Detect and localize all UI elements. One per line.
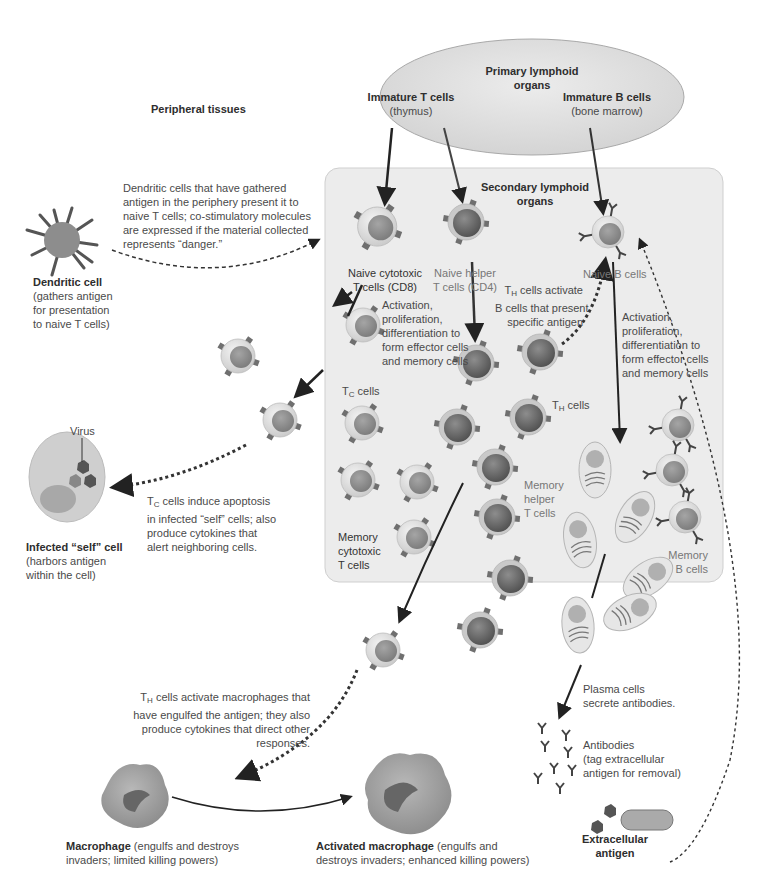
th-macrophage-label: TH cells activate macrophages that have … bbox=[110, 690, 310, 750]
dendritic-cell-image bbox=[27, 208, 97, 275]
immature-t-title: Immature T cells bbox=[366, 90, 456, 104]
tc-induce-line: in infected “self” cells; also bbox=[147, 512, 276, 526]
memory-b-line: Memory bbox=[660, 548, 708, 562]
memory-cyto-line: Memory bbox=[338, 530, 381, 544]
virus-label: Virus bbox=[70, 424, 95, 438]
antibodies-line: antigen for removal) bbox=[583, 766, 681, 780]
th-macro-line: responses. bbox=[110, 736, 310, 750]
activation-b-line: Activation, bbox=[622, 310, 709, 324]
tc-cells-label: TC cells bbox=[342, 384, 380, 402]
plasma-line: Plasma cells bbox=[583, 682, 675, 696]
naive-b-label: Naive B cells bbox=[583, 267, 647, 281]
dendritic-cell-label: Dendritic cell (gathers antigen for pres… bbox=[33, 275, 113, 331]
dendritic-sub-line: for presentation bbox=[33, 303, 113, 317]
antibodies-label: Antibodies (tag extracellular antigen fo… bbox=[583, 738, 681, 780]
act-macro-title: Activated macrophage bbox=[316, 840, 434, 852]
act-macro-line: destroys invaders; enhanced killing powe… bbox=[316, 853, 529, 867]
memory-cyto-line: T cells bbox=[338, 558, 381, 572]
activation-t-line: Activation, bbox=[382, 298, 469, 312]
memory-helper-line: T cells bbox=[524, 506, 564, 520]
plasma-line: secrete antibodies. bbox=[583, 696, 675, 710]
macrophage-line: Macrophage (engulfs and destroys bbox=[66, 839, 239, 853]
memory-cytotoxic-label: Memory cytotoxic T cells bbox=[338, 530, 381, 572]
activation-b-line: differentiation to bbox=[622, 338, 709, 352]
th-macro-text: cells activate macrophages that bbox=[156, 691, 310, 703]
t-symbol: T bbox=[552, 399, 559, 411]
c-subscript: C bbox=[154, 500, 160, 509]
infected-cell-label: Infected “self” cell (harbors antigen wi… bbox=[26, 540, 123, 582]
memory-helper-label: Memory helper T cells bbox=[524, 478, 564, 520]
immature-t-site: (thymus) bbox=[366, 104, 456, 118]
extracellular-line: antigen bbox=[570, 846, 660, 860]
antibodies-image bbox=[534, 723, 576, 794]
dendritic-sub-line: (gathers antigen bbox=[33, 289, 113, 303]
immature-t-label: Immature T cells (thymus) bbox=[366, 90, 456, 118]
tc-induce-text: cells induce apoptosis bbox=[163, 495, 271, 507]
tc-induce-line: TC cells induce apoptosis bbox=[147, 494, 276, 512]
activated-macrophage-label: Activated macrophage (engulfs and destro… bbox=[316, 839, 529, 867]
dendritic-desc-line: antigen in the periphery present it to bbox=[123, 195, 311, 209]
macrophage-label: Macrophage (engulfs and destroys invader… bbox=[66, 839, 239, 867]
activation-b-label: Activation, proliferation, differentiati… bbox=[622, 310, 709, 380]
activation-b-line: form effector cells bbox=[622, 352, 709, 366]
activation-b-line: and memory cells bbox=[622, 366, 709, 380]
naive-cyto-line: Naive cytotoxic bbox=[340, 266, 430, 280]
naive-cyto-line: T cells (CD8) bbox=[340, 280, 430, 294]
primary-title-line1: Primary lymphoid bbox=[470, 64, 594, 78]
immature-b-site: (bone marrow) bbox=[557, 104, 657, 118]
activation-t-line: proliferation, bbox=[382, 312, 469, 326]
naive-helper-label: Naive helper T cells (CD4) bbox=[430, 266, 500, 294]
infected-title: Infected “self” cell bbox=[26, 540, 123, 554]
th-cells-label: TH cells bbox=[552, 398, 590, 416]
infected-sub-line: within the cell) bbox=[26, 568, 123, 582]
plasma-cells-label: Plasma cells secrete antibodies. bbox=[583, 682, 675, 710]
th-cells-text: cells bbox=[568, 399, 590, 411]
extracellular-line: Extracellular bbox=[570, 832, 660, 846]
act-macro-desc: (engulfs and bbox=[434, 840, 498, 852]
dendritic-title: Dendritic cell bbox=[33, 275, 113, 289]
infected-sub-line: (harbors antigen bbox=[26, 554, 123, 568]
th-activate-b-label: TH cells activate B cells that present s… bbox=[495, 283, 583, 329]
antibodies-line: Antibodies bbox=[583, 738, 681, 752]
dendritic-desc-line: are expressed if the material collected bbox=[123, 223, 311, 237]
dendritic-desc-line: naive T cells; co-stimulatory molecules bbox=[123, 209, 311, 223]
memory-cyto-line: cytotoxic bbox=[338, 544, 381, 558]
h-subscript: H bbox=[559, 404, 565, 413]
act-macro-line: Activated macrophage (engulfs and bbox=[316, 839, 529, 853]
t-symbol: T bbox=[147, 495, 154, 507]
activation-t-line: form effector cells bbox=[382, 340, 469, 354]
secondary-title-line1: Secondary lymphoid bbox=[470, 180, 600, 194]
antibodies-line: (tag extracellular bbox=[583, 752, 681, 766]
th-activate-b-text: cells activate bbox=[520, 284, 583, 296]
memory-helper-line: helper bbox=[524, 492, 564, 506]
memory-b-label: Memory B cells bbox=[660, 548, 708, 576]
activation-t-line: and memory cells bbox=[382, 354, 469, 368]
tc-cells-text: cells bbox=[358, 385, 380, 397]
macrophage-desc: (engulfs and destroys bbox=[131, 840, 239, 852]
tc-induce-line: produce cytokines that bbox=[147, 526, 276, 540]
naive-cytotoxic-label: Naive cytotoxic T cells (CD8) bbox=[340, 266, 430, 294]
t-symbol: T bbox=[342, 385, 349, 397]
immature-b-title: Immature B cells bbox=[557, 90, 657, 104]
activation-b-line: proliferation, bbox=[622, 324, 709, 338]
peripheral-tissues-title: Peripheral tissues bbox=[151, 102, 246, 116]
macrophage-line: invaders; limited killing powers) bbox=[66, 853, 239, 867]
tc-induce-line: alert neighboring cells. bbox=[147, 540, 276, 554]
secondary-lymphoid-title: Secondary lymphoid organs bbox=[470, 180, 600, 208]
secondary-title-line2: organs bbox=[470, 194, 600, 208]
macrophage-title: Macrophage bbox=[66, 840, 131, 852]
activation-t-line: differentiation to bbox=[382, 326, 469, 340]
dendritic-description: Dendritic cells that have gathered antig… bbox=[123, 181, 311, 251]
naive-helper-line: T cells (CD4) bbox=[430, 280, 500, 294]
memory-b-line: B cells bbox=[660, 562, 708, 576]
h-subscript: H bbox=[147, 696, 153, 705]
extracellular-antigen-label: Extracellular antigen bbox=[570, 832, 660, 860]
primary-lymphoid-title: Primary lymphoid organs bbox=[470, 64, 594, 92]
tc-induce-label: TC cells induce apoptosis in infected “s… bbox=[147, 494, 276, 554]
dendritic-sub-line: to naive T cells) bbox=[33, 317, 113, 331]
naive-helper-line: Naive helper bbox=[430, 266, 500, 280]
th-macro-line: produce cytokines that direct other bbox=[110, 722, 310, 736]
th-activate-b-line: B cells that present bbox=[495, 301, 583, 315]
th-macro-line: have engulfed the antigen; they also bbox=[110, 708, 310, 722]
dendritic-desc-line: represents “danger.” bbox=[123, 237, 311, 251]
